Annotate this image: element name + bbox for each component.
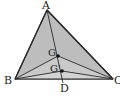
- point-g: [56, 54, 60, 58]
- label-a: A: [41, 0, 51, 12]
- label-g: G: [48, 47, 56, 58]
- triangle-diagram: A B C D G G': [0, 0, 120, 96]
- label-c: C: [114, 74, 120, 87]
- label-g-prime: G': [50, 63, 61, 74]
- label-b: B: [4, 74, 12, 87]
- label-d: D: [60, 82, 69, 95]
